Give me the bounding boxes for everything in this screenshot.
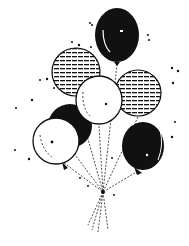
balloon-illustration [0, 0, 189, 246]
balloon-bouquet-image [0, 0, 189, 246]
string-knot [101, 190, 105, 194]
balloon-right-black [122, 122, 164, 175]
balloon-left-white [33, 118, 79, 170]
balloon-right-striped [115, 70, 161, 116]
balloon-center-white [76, 76, 122, 124]
balloon-top-black [95, 8, 139, 66]
